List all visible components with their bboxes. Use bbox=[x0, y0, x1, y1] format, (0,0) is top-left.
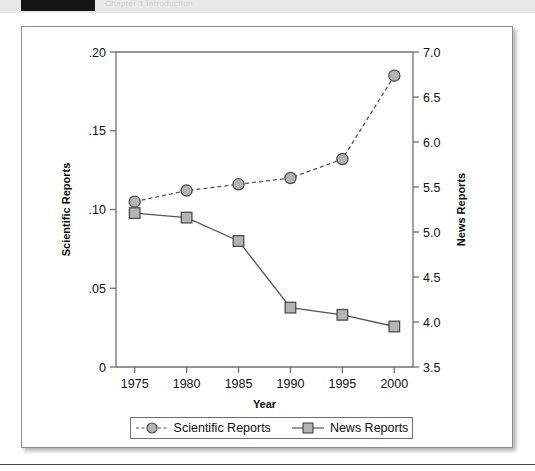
legend-key-square-solid-icon bbox=[291, 421, 325, 435]
chart-area: 0.05.10.15.203.54.04.55.05.56.06.57.0197… bbox=[22, 27, 514, 449]
series-line-2 bbox=[135, 213, 395, 326]
x-tick-label: 1980 bbox=[173, 377, 201, 391]
series-line-1 bbox=[135, 76, 395, 202]
data-point-news-reports-1995 bbox=[337, 310, 348, 321]
legend-entry-scientific-reports: Scientific Reports bbox=[135, 421, 271, 435]
header-faint-text: Chapter 1 Introduction bbox=[105, 0, 193, 8]
legend-label-news-reports: News Reports bbox=[330, 421, 409, 435]
data-point-news-reports-1990 bbox=[285, 302, 296, 313]
data-point-scientific-reports-1985 bbox=[233, 179, 244, 190]
x-tick-label: 1975 bbox=[121, 377, 149, 391]
y-tick-label-left: 0 bbox=[99, 361, 106, 375]
data-point-scientific-reports-1990 bbox=[285, 172, 296, 183]
header-black-block bbox=[21, 0, 95, 11]
data-point-news-reports-1985 bbox=[233, 236, 244, 247]
y-tick-label-right: 4.5 bbox=[423, 271, 440, 285]
figure-frame: 0.05.10.15.203.54.04.55.05.56.06.57.0197… bbox=[21, 26, 513, 448]
line-chart: 0.05.10.15.203.54.04.55.05.56.06.57.0197… bbox=[22, 27, 514, 449]
data-point-news-reports-1980 bbox=[181, 212, 192, 223]
y-tick-label-right: 7.0 bbox=[423, 46, 440, 60]
y-tick-label-left: .10 bbox=[89, 203, 106, 217]
x-tick-label: 1995 bbox=[328, 377, 356, 391]
page-header-strip: Chapter 1 Introduction bbox=[0, 0, 535, 13]
y-axis-title-left: Scientific Reports bbox=[60, 163, 72, 257]
y-tick-label-right: 5.0 bbox=[423, 226, 440, 240]
y-tick-label-right: 3.5 bbox=[423, 361, 440, 375]
data-point-scientific-reports-1980 bbox=[181, 185, 192, 196]
x-axis-title: Year bbox=[253, 398, 277, 410]
data-point-scientific-reports-1995 bbox=[337, 154, 348, 165]
data-point-scientific-reports-1975 bbox=[129, 196, 140, 207]
y-tick-label-left: .15 bbox=[89, 124, 106, 138]
legend-entry-news-reports: News Reports bbox=[291, 421, 409, 435]
y-tick-label-left: .05 bbox=[89, 282, 106, 296]
x-tick-label: 1985 bbox=[225, 377, 253, 391]
y-tick-label-right: 6.5 bbox=[423, 91, 440, 105]
data-point-news-reports-1975 bbox=[129, 208, 140, 219]
x-tick-label: 2000 bbox=[380, 377, 408, 391]
chart-legend: Scientific Reports News Reports bbox=[130, 417, 413, 439]
y-axis-title-right: News Reports bbox=[455, 173, 467, 246]
y-tick-label-right: 4.0 bbox=[423, 316, 440, 330]
y-tick-label-left: .20 bbox=[89, 46, 106, 60]
data-point-news-reports-2000 bbox=[389, 321, 400, 332]
legend-label-scientific-reports: Scientific Reports bbox=[174, 421, 271, 435]
y-tick-label-right: 6.0 bbox=[423, 136, 440, 150]
page-bottom-rule bbox=[0, 464, 535, 465]
legend-key-circle-dashed-icon bbox=[135, 421, 169, 435]
data-point-scientific-reports-2000 bbox=[389, 70, 400, 81]
y-tick-label-right: 5.5 bbox=[423, 181, 440, 195]
x-tick-label: 1990 bbox=[277, 377, 305, 391]
